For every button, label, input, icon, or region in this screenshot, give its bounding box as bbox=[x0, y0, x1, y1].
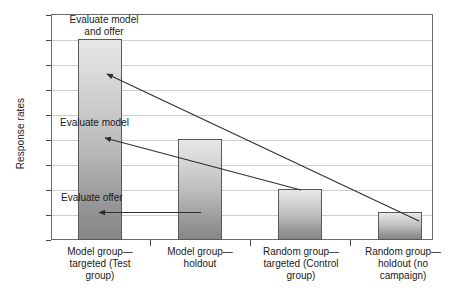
bar-model-group-targeted[interactable] bbox=[78, 39, 122, 240]
y-tick-mark-0 bbox=[46, 240, 51, 241]
x-category-label-random-group-holdout: Random group— holdout (no campaign) bbox=[352, 246, 454, 283]
x-tick-mark-1 bbox=[150, 240, 151, 246]
annotation-evaluate-model: Evaluate model bbox=[60, 117, 129, 129]
x-category-label-model-group-targeted: Model group— targeted (Test group) bbox=[52, 246, 148, 283]
bar-model-group-holdout[interactable] bbox=[178, 139, 222, 240]
y-axis-title: Response rates bbox=[15, 64, 26, 204]
annotation-evaluate-offer: Evaluate offer bbox=[61, 192, 123, 204]
bar-random-group-targeted[interactable] bbox=[278, 189, 322, 240]
x-category-label-random-group-targeted: Random group— targeted (Control group) bbox=[250, 246, 352, 283]
annotation-evaluate-model-and-offer: Evaluate model and offer bbox=[58, 14, 150, 38]
bar-chart: Response rates 0 10 20 30 40 50 60 70 80… bbox=[0, 0, 460, 301]
x-category-label-model-group-holdout: Model group— holdout bbox=[152, 246, 248, 270]
bar-random-group-holdout[interactable] bbox=[378, 212, 422, 240]
